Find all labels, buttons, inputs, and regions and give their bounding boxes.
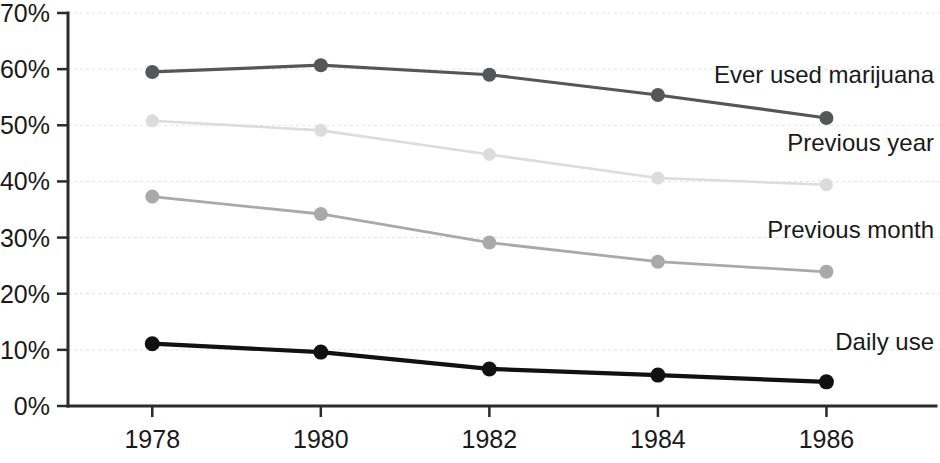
data-point-marker [819, 111, 833, 125]
series-label: Daily use [835, 328, 934, 355]
y-axis-tick-label: 70% [0, 0, 50, 27]
data-point-marker [482, 236, 496, 250]
chart-canvas: 0%10%20%30%40%50%60%70% 1978198019821984… [0, 0, 940, 463]
data-point-marker [482, 361, 497, 376]
line-chart: 0%10%20%30%40%50%60%70% 1978198019821984… [0, 0, 940, 463]
series-label: Previous month [767, 216, 934, 243]
data-point-marker [313, 345, 328, 360]
data-point-marker [651, 88, 665, 102]
y-axis-tick-label: 60% [0, 55, 50, 83]
data-point-marker [651, 172, 664, 185]
x-axis-tick-label: 1984 [630, 425, 686, 453]
data-point-marker [146, 114, 159, 127]
data-point-marker [314, 58, 328, 72]
x-axis-tick-label: 1980 [293, 425, 349, 453]
data-point-marker [314, 207, 328, 221]
x-axis-tick-label: 1982 [462, 425, 518, 453]
data-point-marker [819, 265, 833, 279]
data-point-marker [314, 124, 327, 137]
y-axis-tick-label: 0% [14, 392, 50, 420]
data-point-marker [650, 368, 665, 383]
data-point-marker [482, 68, 496, 82]
series-label: Ever used marijuana [714, 61, 935, 88]
x-axis-tick-label: 1978 [124, 425, 180, 453]
data-point-marker [819, 374, 834, 389]
series-label: Previous year [787, 129, 934, 156]
y-axis-tick-label: 50% [0, 111, 50, 139]
data-point-marker [820, 178, 833, 191]
data-point-marker [145, 190, 159, 204]
data-point-marker [145, 65, 159, 79]
y-axis-tick-label: 40% [0, 167, 50, 195]
x-axis-tick-label: 1986 [799, 425, 855, 453]
data-point-marker [483, 148, 496, 161]
data-point-marker [651, 255, 665, 269]
y-axis-tick-label: 10% [0, 336, 50, 364]
y-axis-tick-label: 30% [0, 224, 50, 252]
y-axis-tick-label: 20% [0, 280, 50, 308]
data-point-marker [145, 336, 160, 351]
